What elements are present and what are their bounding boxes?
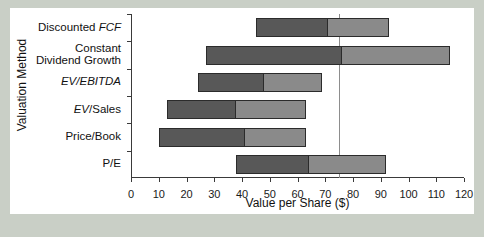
x-tick [381, 178, 382, 182]
bar-segment-high [264, 73, 322, 92]
x-tick [187, 178, 188, 182]
bar-row [131, 100, 464, 119]
x-axis-title: Value per Share ($) [131, 196, 464, 210]
bar-segment-low [256, 18, 328, 37]
y-tick [127, 96, 131, 97]
y-category-label: EV/EBITDA [61, 75, 127, 87]
bar-segment-low [159, 128, 245, 147]
reference-line [339, 14, 340, 178]
x-tick [464, 178, 465, 182]
x-tick [131, 178, 132, 182]
y-category-label: Price/Book [65, 130, 127, 142]
bar-row [131, 46, 464, 65]
x-tick [325, 178, 326, 182]
x-tick [270, 178, 271, 182]
plot-area: 0102030405060708090100110120 [131, 14, 464, 178]
bar-segment-low [236, 155, 308, 174]
y-tick [127, 151, 131, 152]
y-tick [127, 14, 131, 15]
bar-segment-low [198, 73, 265, 92]
x-tick [298, 178, 299, 182]
x-tick [159, 178, 160, 182]
bar-row [131, 73, 464, 92]
y-axis-line [131, 14, 132, 178]
bar-segment-high [328, 18, 389, 37]
y-tick [127, 69, 131, 70]
x-tick [409, 178, 410, 182]
bar-segment-high [236, 100, 305, 119]
x-tick [436, 178, 437, 182]
bar-segment-high [309, 155, 387, 174]
x-tick [353, 178, 354, 182]
y-axis-title: Valuation Method [15, 20, 29, 150]
bar-row [131, 155, 464, 174]
y-category-label: Discounted FCF [38, 21, 127, 33]
bar-segment-low [206, 46, 342, 65]
bar-row [131, 18, 464, 37]
y-category-label: EV/Sales [74, 103, 127, 115]
bar-row [131, 128, 464, 147]
y-category-label: ConstantDividend Growth [36, 42, 127, 66]
y-tick [127, 123, 131, 124]
figure-canvas: Discounted FCFConstantDividend GrowthEV/… [0, 0, 484, 237]
y-tick [127, 41, 131, 42]
bar-segment-high [245, 128, 306, 147]
chart-panel: Discounted FCFConstantDividend GrowthEV/… [10, 8, 474, 214]
y-category-label: P/E [102, 157, 127, 169]
x-tick [214, 178, 215, 182]
x-tick [242, 178, 243, 182]
bar-segment-low [167, 100, 236, 119]
bar-segment-high [342, 46, 450, 65]
